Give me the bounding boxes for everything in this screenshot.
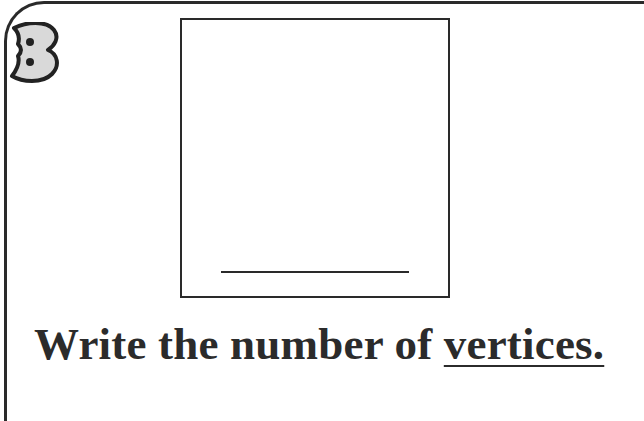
question-number-badge: 3 <box>8 22 62 84</box>
question-prompt: Write the number of vertices. <box>34 318 604 370</box>
square-shape <box>180 18 450 298</box>
answer-blank[interactable] <box>221 271 409 273</box>
prompt-text: Write the number of <box>34 319 444 369</box>
prompt-keyword: vertices. <box>444 319 604 369</box>
number-three-icon <box>8 22 62 84</box>
